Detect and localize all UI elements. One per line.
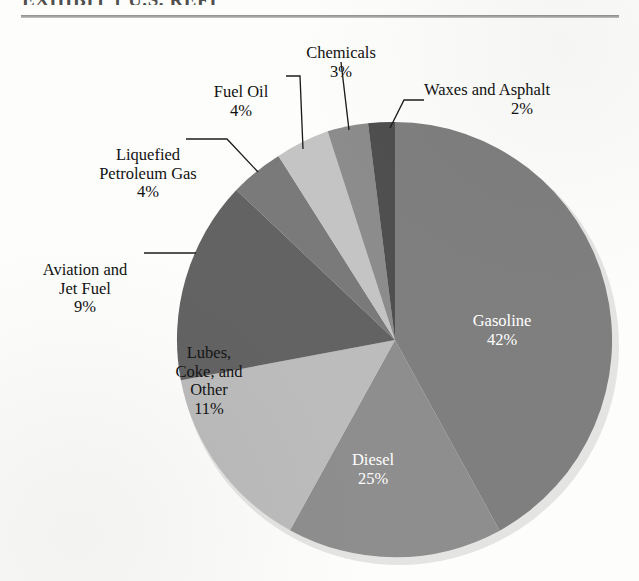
exhibit-page: EXHIBIT 1 U.S. REFI	[0, 0, 639, 581]
label-lubes-name: Lubes, Coke, and Other	[176, 343, 243, 400]
label-liquefied-petroleum-gas: Liquefied Petroleum Gas 4%	[60, 128, 236, 220]
label-gasoline-name: Gasoline	[473, 311, 532, 330]
label-diesel-pct: 25%	[358, 469, 388, 488]
label-diesel: Diesel 25%	[314, 432, 432, 488]
title-rule	[21, 15, 619, 18]
label-aviation-name: Aviation and Jet Fuel	[43, 260, 127, 297]
label-gasoline: Gasoline 42%	[438, 293, 566, 349]
label-lubes-coke-other: Lubes, Coke, and Other 11%	[150, 325, 268, 419]
label-fuel-oil-name: Fuel Oil	[214, 82, 269, 101]
label-diesel-name: Diesel	[352, 450, 394, 469]
label-waxes-pct: 2%	[424, 100, 620, 118]
label-fuel-oil-pct: 4%	[179, 102, 303, 120]
label-lubes-pct: 11%	[194, 399, 224, 418]
label-waxes-and-asphalt: Waxes and Asphalt 2%	[424, 63, 636, 137]
label-aviation-pct: 9%	[2, 298, 168, 316]
label-lpg-pct: 4%	[60, 183, 236, 201]
label-aviation-jet-fuel: Aviation and Jet Fuel 9%	[2, 243, 168, 335]
exhibit-title: EXHIBIT 1 U.S. REFI	[22, 0, 422, 5]
label-lpg-name: Liquefied Petroleum Gas	[99, 145, 197, 182]
label-gasoline-pct: 42%	[487, 330, 517, 349]
label-chemicals-name: Chemicals	[306, 43, 376, 62]
label-waxes-name: Waxes and Asphalt	[424, 80, 550, 99]
